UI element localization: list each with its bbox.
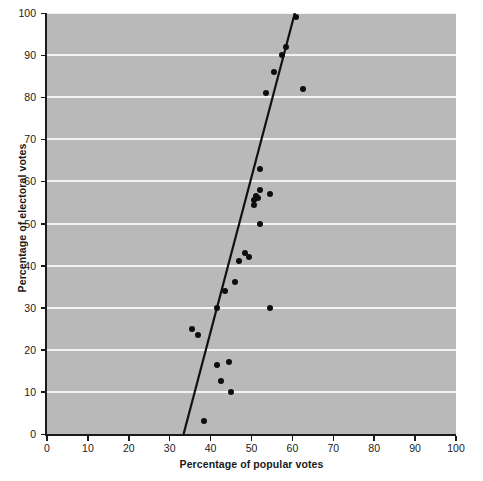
data-point [214,305,220,311]
data-point [267,305,273,311]
y-tick-mark [41,265,46,267]
x-tick-mark [128,436,130,441]
y-tick-mark [41,434,46,436]
y-tick-label: 0 [2,429,36,440]
data-point [263,90,269,96]
y-tick-mark [41,349,46,351]
y-tick-mark [41,223,46,225]
data-point [251,202,257,208]
y-tick-mark [41,139,46,141]
y-tick-label: 50 [2,219,36,230]
x-tick-label: 50 [232,443,272,454]
x-tick-mark [169,436,171,441]
data-point [257,166,263,172]
y-tick-label: 70 [2,134,36,145]
y-tick-mark [41,13,46,15]
y-tick-mark [41,55,46,57]
y-tick-mark [41,307,46,309]
y-tick-label: 20 [2,345,36,356]
x-tick-label: 90 [395,443,435,454]
data-point [300,86,306,92]
data-point [257,187,263,193]
x-tick-mark [210,436,212,441]
x-tick-label: 20 [109,443,149,454]
data-point [228,389,234,395]
y-tick-mark [41,391,46,393]
data-point [214,362,220,368]
x-tick-mark [414,436,416,441]
x-tick-label: 10 [68,443,108,454]
x-tick-mark [87,436,89,441]
data-point [222,288,228,294]
data-point [271,69,277,75]
x-tick-mark [333,436,335,441]
x-tick-label: 40 [191,443,231,454]
y-tick-label: 60 [2,176,36,187]
x-tick-mark [373,436,375,441]
y-tick-label: 30 [2,303,36,314]
data-point [267,191,273,197]
x-axis-title: Percentage of popular votes [47,458,456,470]
x-tick-label: 60 [272,443,312,454]
y-tick-label: 100 [2,8,36,19]
x-tick-mark [455,436,457,441]
scatter-chart-figure: Percentage of electoral votes Percentage… [0,0,483,481]
y-tick-label: 40 [2,261,36,272]
x-tick-label: 0 [27,443,67,454]
y-tick-label: 80 [2,92,36,103]
y-axis-spine [45,13,47,436]
data-point [283,44,289,50]
x-tick-mark [46,436,48,441]
x-tick-label: 70 [313,443,353,454]
regression-line [47,13,456,434]
y-tick-mark [41,97,46,99]
y-tick-label: 10 [2,387,36,398]
y-tick-label: 90 [2,50,36,61]
y-tick-mark [41,181,46,183]
x-tick-label: 80 [354,443,394,454]
x-tick-mark [251,436,253,441]
x-tick-mark [292,436,294,441]
plot-area [47,13,456,434]
data-point [257,221,263,227]
data-point [189,326,195,332]
x-tick-label: 100 [436,443,476,454]
x-tick-label: 30 [150,443,190,454]
